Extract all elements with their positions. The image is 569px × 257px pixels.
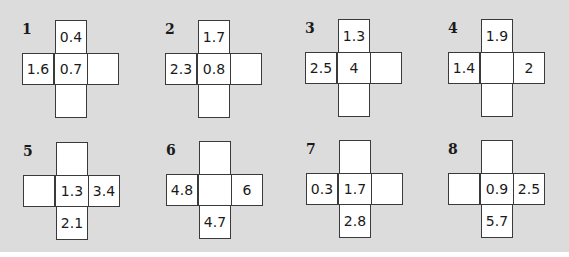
puzzle-number: 4 bbox=[448, 21, 458, 35]
cell-bottom bbox=[338, 83, 370, 117]
cell-top: 1.9 bbox=[481, 19, 513, 53]
puzzle-1: 1 0.4 1.6 0.7 bbox=[22, 22, 122, 122]
cell-right bbox=[370, 52, 402, 84]
cell-top bbox=[56, 142, 88, 176]
cell-center bbox=[480, 52, 514, 84]
cell-left: 4.8 bbox=[166, 174, 198, 206]
puzzle-number: 1 bbox=[22, 22, 32, 36]
puzzle-3: 3 1.3 2.5 4 bbox=[305, 21, 405, 121]
cell-left bbox=[23, 175, 55, 207]
cell-right: 6 bbox=[231, 174, 263, 206]
cell-left: 0.3 bbox=[306, 173, 338, 205]
puzzle-7: 7 0.3 1.7 2.8 bbox=[306, 142, 406, 242]
puzzle-number: 5 bbox=[23, 144, 33, 158]
cell-bottom: 2.8 bbox=[339, 204, 371, 238]
cell-top: 0.4 bbox=[55, 20, 87, 54]
cell-top bbox=[481, 140, 513, 174]
puzzle-2: 2 1.7 2.3 0.8 bbox=[165, 22, 265, 122]
cell-center: 0.8 bbox=[197, 53, 231, 85]
puzzle-number: 7 bbox=[306, 142, 316, 156]
puzzle-8: 8 0.9 2.5 5.7 bbox=[448, 142, 548, 242]
puzzle-6: 6 4.8 6 4.7 bbox=[166, 143, 266, 243]
puzzle-number: 8 bbox=[448, 142, 458, 156]
puzzle-5: 5 1.3 3.4 2.1 bbox=[23, 144, 123, 244]
cell-right: 3.4 bbox=[88, 175, 120, 207]
cell-bottom bbox=[481, 83, 513, 117]
cell-top bbox=[339, 140, 371, 174]
cell-top: 1.3 bbox=[338, 19, 370, 53]
cell-right bbox=[87, 53, 119, 85]
cell-right bbox=[371, 173, 403, 205]
cell-bottom: 2.1 bbox=[56, 206, 88, 240]
cell-center: 0.9 bbox=[480, 173, 514, 205]
cell-right: 2.5 bbox=[513, 173, 545, 205]
cell-left: 1.4 bbox=[448, 52, 480, 84]
cell-right: 2 bbox=[513, 52, 545, 84]
puzzle-number: 2 bbox=[165, 22, 175, 36]
exercise-panel: 1 0.4 1.6 0.7 2 1.7 2.3 0.8 3 1.3 2.5 4 … bbox=[0, 0, 569, 252]
cell-right bbox=[230, 53, 262, 85]
cell-left: 2.3 bbox=[165, 53, 197, 85]
cell-bottom: 4.7 bbox=[199, 205, 231, 239]
cell-bottom: 5.7 bbox=[481, 204, 513, 238]
cell-left: 2.5 bbox=[305, 52, 337, 84]
puzzle-number: 3 bbox=[305, 21, 315, 35]
cell-center: 1.3 bbox=[55, 175, 89, 207]
cell-center: 0.7 bbox=[54, 53, 88, 85]
cell-center: 1.7 bbox=[338, 173, 372, 205]
puzzle-number: 6 bbox=[166, 143, 176, 157]
cell-top: 1.7 bbox=[198, 20, 230, 54]
cell-bottom bbox=[55, 84, 87, 118]
cell-left: 1.6 bbox=[22, 53, 54, 85]
cell-left bbox=[448, 173, 480, 205]
cell-bottom bbox=[198, 84, 230, 118]
cell-center bbox=[198, 174, 232, 206]
cell-center: 4 bbox=[337, 52, 371, 84]
cell-top bbox=[199, 141, 231, 175]
puzzle-4: 4 1.9 1.4 2 bbox=[448, 21, 548, 121]
